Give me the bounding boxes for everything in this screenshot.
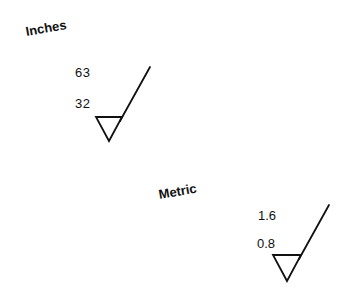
triangle-mark <box>273 255 301 281</box>
extension-line <box>299 205 329 259</box>
surface-finish-symbol-icon <box>0 0 352 306</box>
